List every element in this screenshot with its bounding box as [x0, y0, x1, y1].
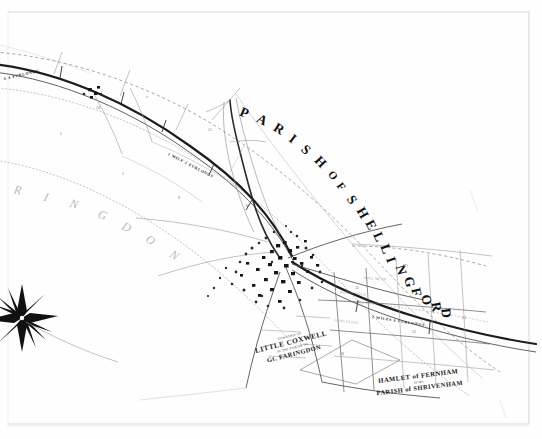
plot-number: 9: [178, 196, 180, 200]
plot-number: 33: [412, 330, 416, 334]
plot-number: 7: [146, 96, 148, 100]
plot-number: 5: [60, 132, 62, 136]
plot-number: 52: [462, 316, 466, 320]
arc-letter: D: [437, 307, 454, 319]
map-sheet: P A R I S H O F S H E L L I N G F O R D …: [0, 0, 542, 439]
plot-number: 41: [404, 264, 408, 268]
plot-number: 21: [208, 128, 212, 132]
plot-number: 14: [96, 106, 100, 110]
plot-number: 3: [122, 172, 124, 176]
plot-number: 26: [245, 204, 249, 208]
plot-number: 32: [355, 286, 359, 290]
plot-number: 18: [340, 352, 344, 356]
